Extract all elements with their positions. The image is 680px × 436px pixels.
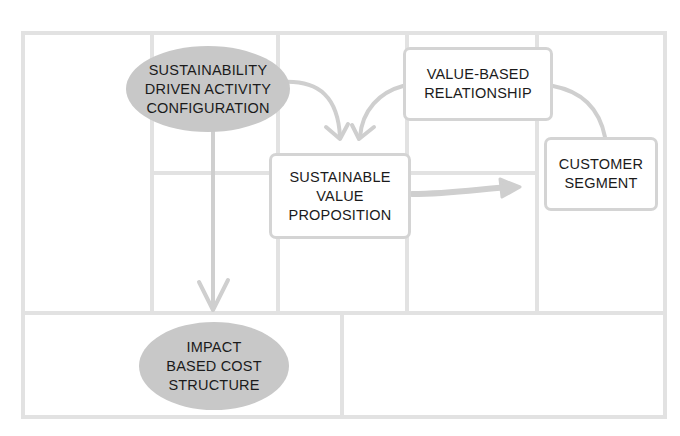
node-customer-segment[interactable]: CUSTOMER SEGMENT (544, 137, 658, 211)
node-impact-based-cost-structure[interactable]: IMPACT BASED COST STRUCTURE (139, 322, 289, 410)
node-label-line: DRIVEN ACTIVITY (145, 80, 271, 99)
arrowhead-icon (500, 179, 520, 197)
business-model-canvas: SUSTAINABILITY DRIVEN ACTIVITY CONFIGURA… (0, 0, 680, 436)
node-value-based-relationship[interactable]: VALUE-BASED RELATIONSHIP (403, 47, 553, 121)
node-label-line: VALUE-BASED (424, 65, 532, 84)
node-label-line: PROPOSITION (289, 206, 392, 225)
arrow-relationship-to-value-prop (360, 86, 403, 137)
node-label-line: CUSTOMER (559, 155, 643, 174)
arrow-value-prop-to-customer (412, 187, 510, 194)
line-relationship-to-customer (553, 86, 605, 137)
node-label-line: RELATIONSHIP (424, 84, 532, 103)
node-label-line: SUSTAINABLE (289, 168, 392, 187)
arrow-activity-to-value-prop (282, 82, 340, 137)
node-label-line: VALUE (289, 187, 392, 206)
node-label-line: STRUCTURE (166, 376, 261, 395)
node-label-line: IMPACT (166, 338, 261, 357)
node-sustainability-driven-activity-configuration[interactable]: SUSTAINABILITY DRIVEN ACTIVITY CONFIGURA… (126, 46, 290, 132)
node-label-line: SUSTAINABILITY (145, 61, 271, 80)
node-label-line: CONFIGURATION (145, 99, 271, 118)
node-label-line: BASED COST (166, 357, 261, 376)
node-label-line: SEGMENT (559, 174, 643, 193)
node-sustainable-value-proposition[interactable]: SUSTAINABLE VALUE PROPOSITION (269, 153, 411, 239)
